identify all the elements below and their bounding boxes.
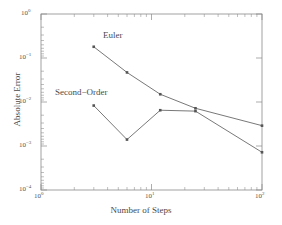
data-point-marker (126, 138, 129, 141)
y-axis-ticks (41, 14, 262, 190)
data-point-marker (159, 93, 162, 96)
second-order-series-label: Second−Order (55, 88, 108, 97)
data-point-marker (194, 110, 197, 113)
data-point-marker (194, 107, 197, 110)
axis-frame (41, 14, 262, 190)
data-point-marker (126, 71, 129, 74)
x-axis-title: Number of Steps (0, 206, 282, 215)
data-series-layer (92, 45, 263, 153)
series-line (94, 47, 262, 126)
x-axis-ticks (41, 14, 262, 190)
series-line (94, 106, 262, 153)
data-point-marker (92, 104, 95, 107)
x-tick-label-0: 100 (34, 193, 44, 200)
chart-figure: 100 10−1 10−2 10−3 10−4 100 101 102 Numb… (0, 0, 282, 225)
x-tick-label-2: 102 (255, 193, 265, 200)
y-axis-title: Absolute Error (13, 55, 22, 145)
data-point-marker (159, 109, 162, 112)
euler-series-label: Euler (103, 31, 123, 40)
data-point-marker (92, 45, 95, 48)
y-tick-label-0: 100 (21, 10, 31, 17)
x-tick-label-1: 101 (145, 193, 155, 200)
plot-border (41, 14, 262, 190)
data-point-marker (261, 124, 264, 127)
data-point-marker (261, 151, 264, 154)
series-second-order (92, 104, 263, 153)
series-euler (92, 45, 263, 126)
y-tick-label-4: 10−4 (19, 186, 31, 193)
